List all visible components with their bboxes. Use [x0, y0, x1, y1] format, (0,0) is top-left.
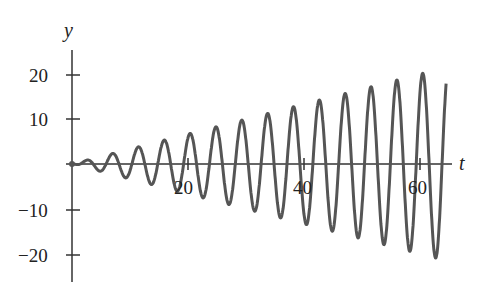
y-tick-label-20: 20	[29, 66, 48, 85]
data-curve	[72, 73, 446, 258]
t-tick-label-20: 20	[174, 178, 193, 197]
y-tick-label-10: 10	[29, 110, 48, 129]
y-tick-label-m20: −20	[18, 246, 48, 265]
chart-canvas	[0, 0, 491, 297]
t-axis-label: t	[459, 153, 465, 173]
t-tick-label-40: 40	[293, 178, 312, 197]
origin-dot	[69, 161, 75, 167]
t-tick-label-60: 60	[408, 178, 427, 197]
y-tick-label-m10: −10	[18, 201, 48, 220]
y-axis-label: y	[64, 20, 73, 40]
